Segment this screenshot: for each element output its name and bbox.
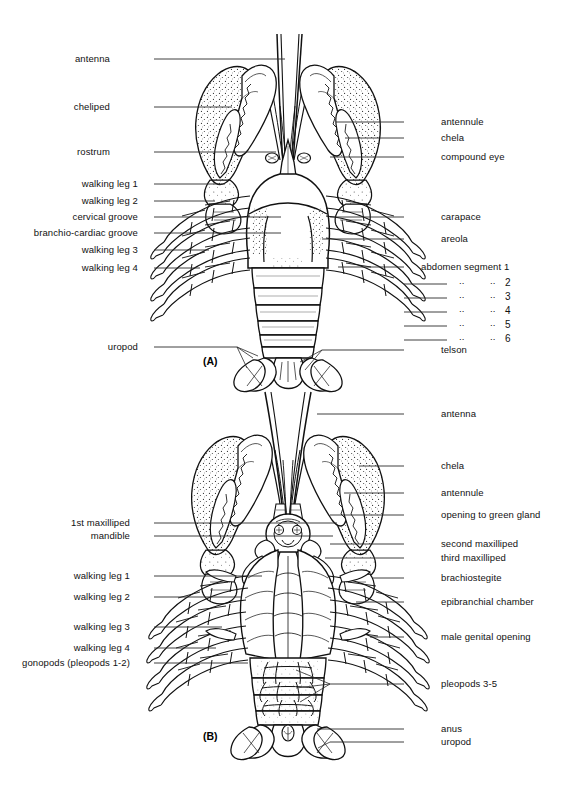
label-a-branchio-cardiac-groove: branchio-cardiac groove [34, 227, 138, 238]
ditto-mark-5-1: .. [459, 317, 464, 328]
ditto-mark-3-2: .. [490, 289, 495, 300]
anus-b [282, 725, 294, 741]
label-b-walking-leg-4: walking leg 4 [74, 642, 130, 653]
figure-page: antennachelipedrostrumwalking leg 1walki… [0, 0, 563, 789]
label-a-telson: telson [441, 344, 467, 355]
label-b-anus: anus [441, 723, 462, 734]
label-a-compound-eye: compound eye [441, 151, 505, 162]
areola-a [268, 218, 309, 262]
label-b-walking-leg-2: walking leg 2 [74, 591, 130, 602]
panel-b-drawing [147, 392, 429, 760]
label-b-brachiostegite: brachiostegite [441, 572, 502, 583]
ditto-mark-4-1: .. [459, 303, 464, 314]
label-b-antenna: antenna [441, 408, 476, 419]
panel-b-mark: (B) [203, 730, 218, 742]
label-a-walking-leg-2: walking leg 2 [82, 195, 138, 206]
label-a-cheliped: cheliped [74, 101, 110, 112]
abdomen-segment-number-2: 2 [505, 277, 511, 288]
label-a-chela: chela [441, 132, 464, 143]
abdomen-segment-number-5: 5 [505, 319, 511, 330]
label-b-gonopods-pleopods-1-2: gonopods (pleopods 1-2) [22, 657, 130, 668]
abdomen-a [252, 268, 324, 358]
panel-a-mark: (A) [203, 355, 218, 367]
label-a-uropod: uropod [108, 341, 138, 352]
label-b-1st-maxilliped: 1st maxilliped [71, 517, 130, 528]
label-b-male-genital-opening: male genital opening [441, 631, 531, 642]
ditto-mark-3-1: .. [459, 289, 464, 300]
label-b-mandible: mandible [91, 530, 130, 541]
label-b-opening-to-green-gland: opening to green gland [441, 509, 540, 520]
label-a-abdomen-segment-1: abdomen segment 1 [421, 261, 509, 272]
abdomen-segment-number-4: 4 [505, 305, 511, 316]
label-a-rostrum: rostrum [77, 146, 110, 157]
ditto-mark-4-2: .. [490, 303, 495, 314]
label-a-antenna: antenna [75, 53, 110, 64]
label-b-uropod: uropod [441, 736, 471, 747]
ditto-mark-6-2: .. [490, 331, 495, 342]
ditto-mark-5-2: .. [490, 317, 495, 328]
label-b-pleopods-3-5: pleopods 3-5 [441, 678, 497, 689]
ditto-mark-2-1: .. [459, 275, 464, 286]
label-a-walking-leg-1: walking leg 1 [82, 178, 138, 189]
abdomen-segment-number-6: 6 [505, 333, 511, 344]
abdomen-segment-number-3: 3 [505, 291, 511, 302]
label-b-third-maxilliped: third maxilliped [441, 552, 506, 563]
label-b-chela: chela [441, 460, 464, 471]
label-a-areola: areola [441, 233, 468, 244]
label-a-carapace: carapace [441, 211, 481, 222]
panel-a-drawing [151, 34, 425, 392]
label-a-antennule: antennule [441, 116, 484, 127]
label-a-walking-leg-4: walking leg 4 [82, 262, 138, 273]
label-b-antennule: antennule [441, 487, 484, 498]
ditto-mark-6-1: .. [459, 331, 464, 342]
ditto-mark-2-2: .. [490, 275, 495, 286]
label-b-walking-leg-1: walking leg 1 [74, 570, 130, 581]
label-b-walking-leg-3: walking leg 3 [74, 621, 130, 632]
label-b-second-maxilliped: second maxilliped [441, 538, 518, 549]
label-b-epibranchial-chamber: epibranchial chamber [441, 596, 534, 607]
label-a-cervical-groove: cervical groove [73, 211, 138, 222]
label-a-walking-leg-3: walking leg 3 [82, 244, 138, 255]
